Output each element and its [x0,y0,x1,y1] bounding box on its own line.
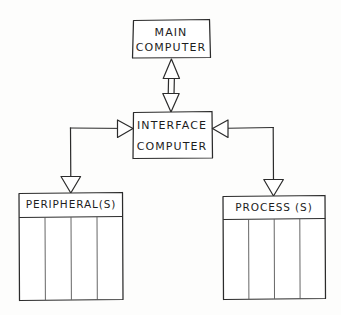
node-main-computer[interactable]: MAIN COMPUTER [133,20,211,59]
connector-interface-to-peripherals[interactable] [61,120,133,193]
arrowhead-down-to-processes [264,180,284,197]
peripherals-label: PERIPHERAL(S) [26,198,117,210]
connector-main-to-interface[interactable] [163,59,180,112]
arrowhead-up-to-main-computer [163,59,179,79]
main-computer-label-line1: MAIN [155,26,188,39]
connector-interface-to-processes[interactable] [213,120,284,196]
arrowhead-down-to-peripherals [61,177,81,194]
interface-computer-label-line1: INTERFACE [137,119,207,132]
node-interface-computer[interactable]: INTERFACE COMPUTER [133,112,213,159]
arrowhead-right-to-interface-computer [118,120,134,138]
node-processes[interactable]: PROCESS (S) [223,196,326,300]
main-computer-label-line2: COMPUTER [136,41,207,54]
processes-label: PROCESS (S) [235,201,312,213]
interface-computer-label-line2: COMPUTER [137,140,208,153]
node-peripherals[interactable]: PERIPHERAL(S) [19,193,123,301]
diagram-svg: MAIN COMPUTER INTERFACE COMPUTER [0,0,341,315]
arrowhead-left-to-interface-computer [213,120,229,138]
diagram-canvas: MAIN COMPUTER INTERFACE COMPUTER [0,0,341,315]
arrowhead-down-to-interface-computer [163,94,179,113]
